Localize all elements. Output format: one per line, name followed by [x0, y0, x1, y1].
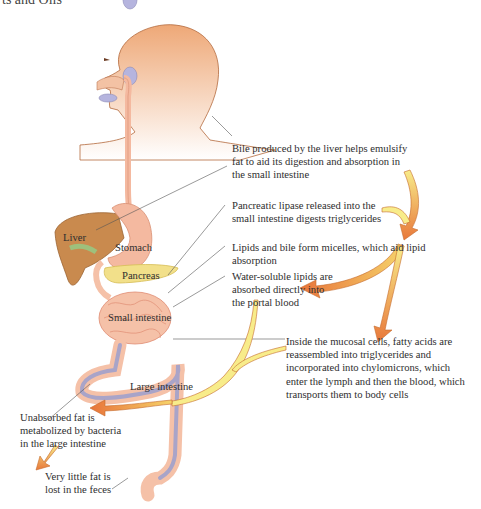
note-bile: Bile produced by the liver helps emulsif…: [232, 142, 407, 182]
label-small-intestine: Small intestine: [108, 312, 171, 323]
label-stomach: Stomach: [115, 242, 152, 253]
label-liver: Liver: [63, 232, 86, 243]
page-header-fragment: ts and Oils: [2, 0, 62, 8]
note-pancreatic-lipase: Pancreatic lipase released into the smal…: [232, 199, 381, 225]
note-mucosal-cells: Inside the mucosal cells, fatty acids ar…: [286, 335, 465, 401]
note-micelles: Lipids and bile form micelles, which aid…: [232, 241, 426, 267]
label-pancreas: Pancreas: [122, 270, 160, 281]
head-silhouette: [80, 0, 275, 160]
note-water-soluble-lipids: Water-soluble lipids are absorbed direct…: [232, 270, 333, 310]
note-unabsorbed-fat: Unabsorbed fat is metabolized by bacteri…: [20, 411, 121, 451]
label-large-intestine: Large intestine: [130, 381, 193, 392]
note-feces: Very little fat is lost in the feces: [45, 470, 111, 496]
